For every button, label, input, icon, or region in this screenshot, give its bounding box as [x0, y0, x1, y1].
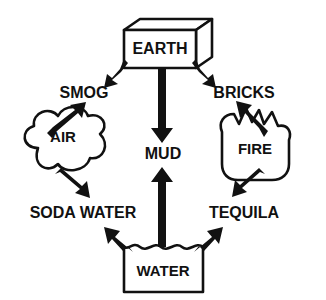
edge-water-to-mud	[151, 167, 173, 247]
node-air: AIR	[25, 107, 105, 170]
arrow-water-soda-water	[104, 227, 133, 252]
diagram-canvas: EARTH AIR FIRE WATER	[0, 0, 326, 300]
arrow-water-mud	[151, 167, 173, 247]
water-label: WATER	[136, 262, 189, 279]
node-earth: EARTH	[124, 19, 212, 68]
edge-water-to-tequila	[194, 227, 223, 252]
arrow-air-soda-water	[55, 168, 90, 198]
smog-label: SMOG	[60, 84, 109, 101]
tequila-label: TEQUILA	[209, 204, 280, 221]
earth-label: EARTH	[132, 40, 187, 57]
edge-water-to-soda-water	[104, 227, 133, 252]
bricks-label: BRICKS	[213, 84, 275, 101]
fire-label: FIRE	[238, 140, 272, 157]
node-water: WATER	[124, 245, 203, 292]
edge-earth-to-mud	[151, 68, 173, 143]
edge-air-to-soda-water	[55, 168, 90, 198]
mud-label: MUD	[145, 145, 181, 162]
soda-water-label: SODA WATER	[30, 204, 137, 221]
diagram-svg: EARTH AIR FIRE WATER	[0, 0, 326, 300]
arrow-water-tequila	[194, 227, 223, 252]
arrow-earth-mud	[151, 68, 173, 143]
